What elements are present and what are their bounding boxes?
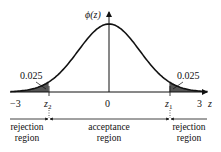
tick-0: 0 bbox=[105, 98, 110, 109]
z2-label: z2 bbox=[43, 98, 52, 111]
left-region-label-1: rejection bbox=[10, 122, 43, 132]
z1-label: z1 bbox=[164, 98, 173, 111]
x-axis-label: z bbox=[207, 98, 212, 109]
y-axis-label: ϕ(z) bbox=[85, 9, 101, 21]
tick-3: 3 bbox=[197, 98, 202, 109]
left-tail-label: 0.025 bbox=[20, 70, 43, 81]
middle-region-label-1: acceptance bbox=[88, 122, 130, 132]
normal-distribution-diagram: ϕ(z) 0.025 0.025 −3 0 3 z z2 z1 rejectio… bbox=[0, 0, 221, 152]
tick-neg3: −3 bbox=[10, 98, 21, 109]
right-region-label-1: rejection bbox=[172, 122, 205, 132]
right-tail-label: 0.025 bbox=[177, 70, 200, 81]
right-region-label-2: region bbox=[177, 133, 202, 143]
middle-region-label-2: region bbox=[97, 133, 122, 143]
left-region-label-2: region bbox=[15, 133, 40, 143]
